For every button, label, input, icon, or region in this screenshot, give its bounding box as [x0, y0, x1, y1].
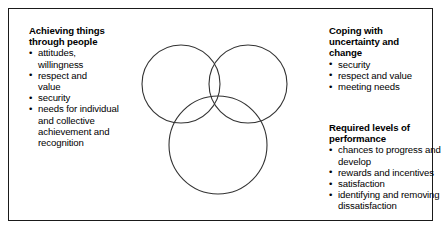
- text-block-achieving-things: Achieving things through people •attitud…: [29, 25, 137, 148]
- bullet-icon: •: [29, 47, 32, 58]
- list-item: •rewards and incentives: [329, 167, 444, 178]
- list-item-label: security: [338, 59, 370, 70]
- list-item: •chances to progress and develop: [329, 144, 444, 166]
- list-item: •security: [29, 92, 137, 103]
- venn-circles-graphic: [129, 27, 314, 217]
- bullet-icon: •: [329, 69, 332, 80]
- list-item: •respect and value: [29, 70, 137, 92]
- list-item-label: chances to progress and develop: [338, 144, 441, 166]
- bullet-icon: •: [29, 103, 32, 114]
- list-item: •identifying and removing dissatisfactio…: [329, 189, 444, 211]
- bullet-icon: •: [329, 144, 332, 155]
- bullet-icon: •: [329, 58, 332, 69]
- heading-required-levels: Required levels of performance: [329, 122, 444, 144]
- bullet-icon: •: [329, 81, 332, 92]
- figure-frame: Achieving things through people •attitud…: [8, 8, 433, 221]
- list-item: •respect and value: [329, 70, 441, 81]
- text-block-required-levels: Required levels of performance •chances …: [329, 122, 444, 212]
- list-item: •needs for individual and collective ach…: [29, 103, 137, 148]
- list-required-levels: •chances to progress and develop •reward…: [329, 144, 444, 211]
- bullet-icon: •: [29, 69, 32, 80]
- bullet-icon: •: [29, 92, 32, 103]
- list-item-label: identifying and removing dissatisfaction: [338, 189, 440, 211]
- list-achieving-things: •attitudes, willingness •respect and val…: [29, 47, 137, 148]
- list-item: •meeting needs: [329, 81, 441, 92]
- list-item-label: meeting needs: [338, 81, 400, 92]
- list-item-label: rewards and incentives: [338, 167, 434, 178]
- list-item-label: security: [38, 92, 70, 103]
- text-block-coping-with-uncertainty: Coping with uncertainty and change •secu…: [329, 25, 441, 92]
- heading-coping-with-uncertainty: Coping with uncertainty and change: [329, 25, 441, 59]
- top-right-circle: [209, 45, 287, 123]
- list-item-label: needs for individual and collective achi…: [38, 103, 119, 148]
- list-item: •attitudes, willingness: [29, 47, 137, 69]
- list-coping-with-uncertainty: •security •respect and value •meeting ne…: [329, 59, 441, 93]
- list-item-label: satisfaction: [338, 178, 385, 189]
- list-item: •security: [329, 59, 441, 70]
- top-left-circle: [142, 45, 220, 123]
- heading-achieving-things: Achieving things through people: [29, 25, 137, 47]
- venn-diagram-figure: Achieving things through people •attitud…: [0, 0, 444, 239]
- list-item-label: respect and value: [338, 70, 412, 81]
- list-item-label: respect and value: [38, 70, 87, 92]
- bullet-icon: •: [329, 189, 332, 200]
- bullet-icon: •: [329, 166, 332, 177]
- bottom-circle: [169, 96, 267, 194]
- list-item-label: attitudes, willingness: [38, 47, 83, 69]
- list-item: •satisfaction: [329, 178, 444, 189]
- bullet-icon: •: [329, 178, 332, 189]
